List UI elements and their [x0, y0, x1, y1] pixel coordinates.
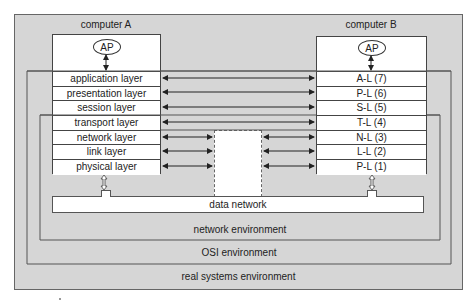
speck: [59, 298, 61, 300]
arrows-overlay: [0, 0, 476, 305]
osi-environment-label: OSI environment: [27, 247, 451, 258]
real-systems-environment-label: real systems environment: [14, 271, 463, 282]
network-environment-label: network environment: [40, 224, 440, 235]
